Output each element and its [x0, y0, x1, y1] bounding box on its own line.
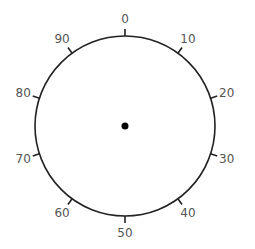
tick-mark: [211, 154, 218, 156]
tick-label: 80: [16, 86, 31, 100]
tick-label: 10: [180, 32, 195, 46]
tick-mark: [178, 199, 182, 205]
dial-diagram: 0102030405060708090: [0, 0, 255, 249]
tick-mark: [211, 96, 218, 98]
tick-label: 40: [180, 206, 195, 220]
tick-label: 0: [121, 12, 129, 26]
tick-label: 50: [117, 226, 132, 240]
tick-mark: [33, 96, 40, 98]
center-dot: [122, 123, 129, 130]
tick-label: 90: [54, 32, 69, 46]
tick-mark: [33, 154, 40, 156]
tick-label: 60: [54, 206, 69, 220]
tick-label: 20: [219, 86, 234, 100]
dial-canvas: 0102030405060708090: [0, 0, 255, 249]
tick-mark: [178, 48, 182, 54]
tick-label: 30: [219, 152, 234, 166]
tick-mark: [68, 199, 72, 205]
tick-label: 70: [16, 152, 31, 166]
tick-mark: [68, 48, 72, 54]
